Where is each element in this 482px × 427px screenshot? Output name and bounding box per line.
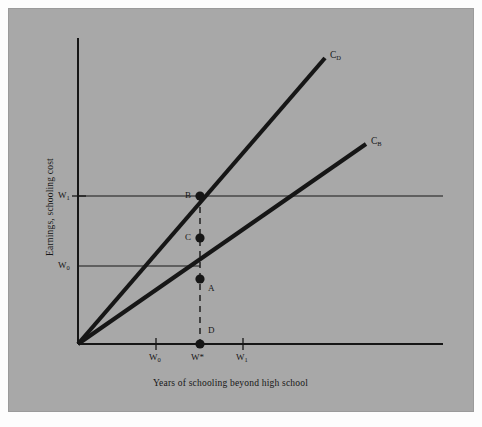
x-tick-label-w0-main: W (149, 352, 158, 362)
curve-cb (78, 144, 366, 344)
y-tick-label-w1-main: W (58, 190, 67, 200)
figure-root: Earnings, schooling cost Years of school… (0, 0, 482, 427)
point-label-d: D (208, 326, 215, 335)
curve-label-cd-sub: D (336, 54, 341, 61)
y-tick-label-w1-sub: 1 (67, 194, 70, 201)
plot-area: Earnings, schooling cost Years of school… (8, 8, 474, 412)
y-tick-label-w0-main: W (58, 260, 67, 270)
y-tick-label-w1: W1 (58, 191, 70, 200)
curve-label-cb-sub: B (377, 140, 381, 147)
point-d (195, 339, 204, 348)
point-label-c: C (185, 233, 191, 242)
point-c (195, 233, 204, 242)
x-tick-label-wstar-main: W* (191, 352, 204, 362)
point-a (195, 274, 204, 283)
x-tick-label-w0: W0 (149, 353, 161, 362)
curve-cd (78, 58, 325, 344)
x-tick-label-w1-main: W (236, 352, 245, 362)
x-tick-label-w0-sub: 0 (158, 356, 161, 363)
figure-panel: Earnings, schooling cost Years of school… (8, 8, 474, 412)
point-label-b: B (185, 191, 191, 200)
y-tick-label-w0-sub: 0 (67, 264, 70, 271)
point-b (195, 191, 204, 200)
x-tick-label-w1-sub: 1 (245, 356, 248, 363)
y-tick-label-w0: W0 (58, 261, 70, 270)
x-axis-title: Years of schooling beyond high school (153, 379, 308, 389)
point-label-a: A (208, 284, 215, 293)
y-axis-title: Earnings, schooling cost (46, 158, 56, 256)
x-tick-label-w1: W1 (236, 353, 248, 362)
curve-label-cb: CB (371, 137, 382, 147)
x-tick-label-wstar: W* (191, 353, 204, 362)
curve-label-cd: CD (330, 51, 341, 61)
